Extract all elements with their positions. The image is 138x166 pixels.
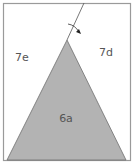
region-label-left: 7e <box>15 52 29 63</box>
diagram-canvas <box>0 0 138 166</box>
fold-diagram: 7e 7d 6a <box>0 0 138 166</box>
region-label-right: 7d <box>99 47 113 58</box>
region-label-triangle: 6a <box>59 113 73 124</box>
